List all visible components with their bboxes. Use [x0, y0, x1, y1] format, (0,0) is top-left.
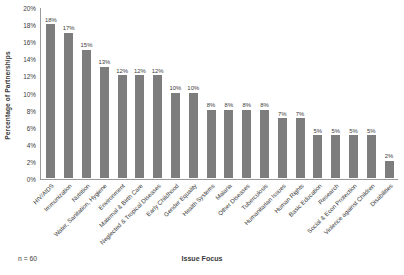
bar-value-label: 10% [187, 85, 199, 91]
bar-slot: 2% [380, 8, 398, 178]
bar-slot: 8% [238, 8, 256, 178]
bar-value-label: 18% [45, 17, 57, 23]
bar-slot: 5% [309, 8, 327, 178]
y-axis-tick-label: 18% [23, 22, 36, 29]
x-tick-slot: Disabilities [380, 181, 398, 257]
bar[interactable] [367, 135, 376, 178]
bar-value-label: 13% [98, 59, 110, 65]
bar-value-label: 7% [278, 111, 287, 117]
bar[interactable] [118, 75, 127, 178]
y-axis-tick-label: 12% [23, 73, 36, 80]
bar-slot: 18% [42, 8, 60, 178]
y-axis-tick-labels: 20%18%16%14%12%10%8%6%4%2%0% [14, 8, 38, 180]
bar[interactable] [171, 93, 180, 179]
bar-slot: 7% [273, 8, 291, 178]
bar-slot: 5% [345, 8, 363, 178]
y-axis-tick-label: 4% [27, 141, 36, 148]
x-axis-title: Issue Focus [0, 255, 404, 263]
bar-value-label: 5% [314, 128, 323, 134]
bar[interactable] [278, 118, 287, 178]
bar-value-label: 7% [296, 111, 305, 117]
bar-slot: 8% [220, 8, 238, 178]
bar[interactable] [82, 50, 91, 178]
bar[interactable] [207, 110, 216, 178]
bar-value-label: 10% [170, 85, 182, 91]
bar-slot: 12% [113, 8, 131, 178]
bar-slot: 15% [78, 8, 96, 178]
bar[interactable] [46, 24, 55, 178]
y-axis-tick-label: 10% [23, 90, 36, 97]
y-axis-tick-label: 20% [23, 5, 36, 12]
bar[interactable] [224, 110, 233, 178]
bar[interactable] [260, 110, 269, 178]
bar-slot: 13% [95, 8, 113, 178]
plot-area: 18%17%15%13%12%12%12%10%10%8%8%8%8%7%7%5… [40, 8, 398, 180]
bar-slot: 5% [327, 8, 345, 178]
bar-value-label: 12% [152, 68, 164, 74]
bar-slot: 8% [202, 8, 220, 178]
bar-value-label: 12% [116, 68, 128, 74]
bar-slot: 8% [256, 8, 274, 178]
bar[interactable] [385, 161, 394, 178]
y-axis-tick-label: 6% [27, 124, 36, 131]
bar-value-label: 8% [225, 102, 234, 108]
bar[interactable] [189, 93, 198, 179]
bar-value-label: 5% [331, 128, 340, 134]
sample-size-note: n = 60 [18, 255, 37, 262]
bar-value-label: 12% [134, 68, 146, 74]
y-axis-tick-label: 8% [27, 107, 36, 114]
y-axis-tick-label: 16% [23, 39, 36, 46]
bar-slot: 7% [291, 8, 309, 178]
y-axis-title: Percentage of Partnerships [0, 0, 14, 190]
bar-slot: 10% [167, 8, 185, 178]
bar-value-label: 8% [207, 102, 216, 108]
bar-slot: 17% [60, 8, 78, 178]
bar-value-label: 8% [242, 102, 251, 108]
bar[interactable] [313, 135, 322, 178]
bar-value-label: 5% [367, 128, 376, 134]
bar[interactable] [64, 33, 73, 178]
y-axis-tick-label: 0% [27, 176, 36, 183]
bar-series: 18%17%15%13%12%12%12%10%10%8%8%8%8%7%7%5… [42, 8, 398, 178]
bar[interactable] [331, 135, 340, 178]
bar-slot: 12% [149, 8, 167, 178]
bar[interactable] [296, 118, 305, 178]
bar-value-label: 8% [260, 102, 269, 108]
y-axis-tick-label: 2% [27, 158, 36, 165]
bar-value-label: 15% [81, 42, 93, 48]
bar[interactable] [242, 110, 251, 178]
y-axis-tick-label: 14% [23, 56, 36, 63]
y-axis-title-label: Percentage of Partnerships [4, 51, 11, 139]
bar-slot: 5% [362, 8, 380, 178]
bar-value-label: 2% [385, 153, 394, 159]
x-axis-tick-labels: HIV/AIDSImmunizationNutritionWater, Sani… [41, 181, 398, 257]
bar[interactable] [153, 75, 162, 178]
bar[interactable] [349, 135, 358, 178]
bar[interactable] [135, 75, 144, 178]
bar-value-label: 5% [349, 128, 358, 134]
bar[interactable] [100, 67, 109, 178]
bar-slot: 10% [184, 8, 202, 178]
bar-value-label: 17% [63, 25, 75, 31]
bar-chart: Percentage of Partnerships 20%18%16%14%1… [0, 0, 404, 275]
bar-slot: 12% [131, 8, 149, 178]
